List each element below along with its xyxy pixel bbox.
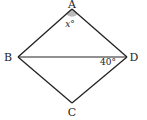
- angle-label-x: x°: [65, 19, 75, 29]
- vertex-label-b: B: [4, 51, 12, 64]
- segment-ab: [18, 9, 72, 57]
- segment-ad: [72, 9, 127, 57]
- vertex-label-a: A: [67, 0, 77, 11]
- segment-bc: [18, 57, 72, 103]
- angle-label-40: 40°: [100, 57, 116, 67]
- vertex-label-d: D: [130, 51, 139, 64]
- geometry-diagram: A B D C x° 40°: [0, 0, 147, 120]
- vertex-label-c: C: [68, 106, 76, 119]
